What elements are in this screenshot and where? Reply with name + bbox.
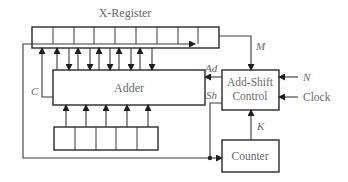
ad-label: Ad <box>204 62 218 74</box>
multiplicand-register <box>54 127 158 150</box>
m-label: M <box>255 40 266 52</box>
carry-c-label: C <box>31 85 39 97</box>
n-input: N <box>279 71 311 83</box>
ad-signal: Ad <box>204 62 222 77</box>
x-register <box>32 27 219 48</box>
carry-line: C <box>31 48 53 97</box>
control-label-line1: Add-Shift <box>227 76 274 88</box>
multiplier-block-diagram: X-Register Adder C <box>0 0 348 182</box>
adder-block: Adder <box>53 70 205 105</box>
counter-block: Counter <box>222 140 279 172</box>
n-label: N <box>302 71 311 83</box>
control-label-line2: Control <box>232 90 267 102</box>
counter-label: Counter <box>231 150 268 162</box>
clock-input: Clock <box>279 91 331 103</box>
x-register-label: X-Register <box>99 6 152 20</box>
sh-signal: Sh <box>206 89 222 160</box>
k-label: K <box>256 120 265 132</box>
add-shift-control-block: Add-Shift Control <box>222 70 279 110</box>
register-adder-bus <box>57 48 152 70</box>
multiplicand-adder-bus <box>66 105 148 127</box>
m-signal: M <box>219 36 266 70</box>
k-signal: K <box>251 110 265 140</box>
clock-label: Clock <box>303 91 331 103</box>
adder-label: Adder <box>114 81 144 95</box>
sh-label: Sh <box>206 89 218 101</box>
